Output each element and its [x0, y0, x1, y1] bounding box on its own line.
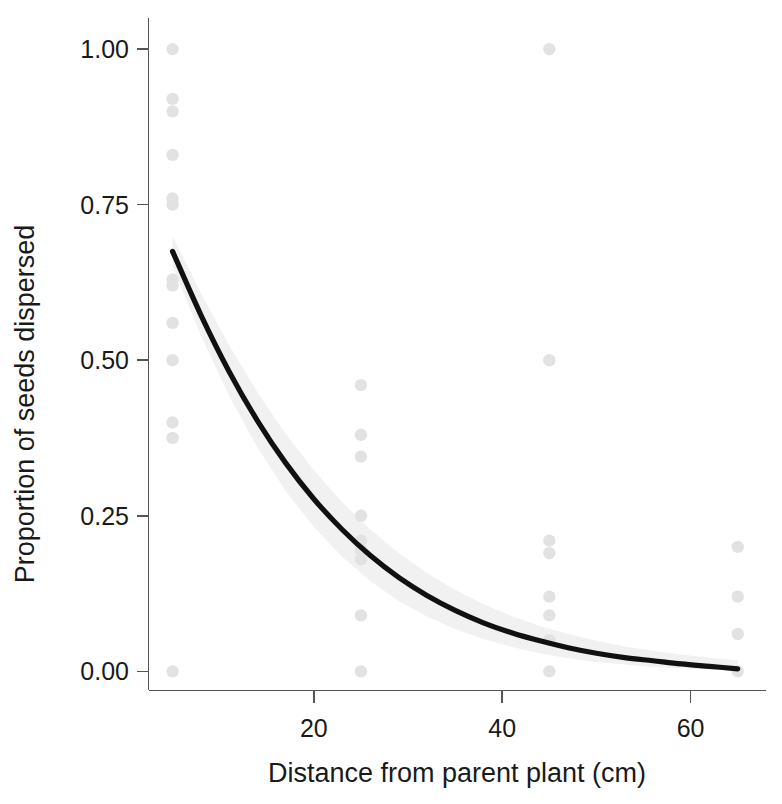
scatter-plot: 0.000.250.500.751.00 204060 Distance fro… [0, 0, 782, 804]
data-point [166, 665, 178, 677]
data-point [543, 609, 555, 621]
x-axis-title: Distance from parent plant (cm) [268, 758, 646, 788]
data-point [355, 379, 367, 391]
data-point [355, 553, 367, 565]
data-point [166, 105, 178, 117]
data-point [355, 510, 367, 522]
y-tick-label: 0.00 [80, 657, 129, 685]
data-point [166, 354, 178, 366]
y-axis-ticks: 0.000.250.500.751.00 [80, 35, 149, 685]
x-tick-label: 60 [677, 714, 705, 742]
data-point [166, 317, 178, 329]
data-point [355, 429, 367, 441]
data-point [166, 149, 178, 161]
data-point [166, 416, 178, 428]
y-tick-label: 0.50 [80, 346, 129, 374]
data-points-group [166, 43, 744, 678]
data-point [355, 665, 367, 677]
figure-container: 0.000.250.500.751.00 204060 Distance fro… [0, 0, 782, 804]
confidence-band [173, 236, 738, 671]
confidence-band-area [173, 236, 738, 671]
y-axis-title: Proportion of seeds dispersed [10, 225, 40, 584]
data-point [166, 432, 178, 444]
data-point [543, 43, 555, 55]
y-tick-label: 0.25 [80, 502, 129, 530]
data-point [355, 609, 367, 621]
data-point [543, 665, 555, 677]
x-tick-label: 40 [488, 714, 516, 742]
y-tick-label: 1.00 [80, 35, 129, 63]
data-point [543, 590, 555, 602]
data-point [732, 590, 744, 602]
y-tick-label: 0.75 [80, 191, 129, 219]
data-point [543, 547, 555, 559]
data-point [166, 43, 178, 55]
data-point [732, 541, 744, 553]
data-point [166, 198, 178, 210]
data-point [166, 279, 178, 291]
x-tick-label: 20 [300, 714, 328, 742]
data-point [543, 534, 555, 546]
data-point [166, 93, 178, 105]
x-axis-ticks: 204060 [300, 690, 705, 742]
data-point [543, 354, 555, 366]
data-point [355, 450, 367, 462]
data-point [732, 628, 744, 640]
